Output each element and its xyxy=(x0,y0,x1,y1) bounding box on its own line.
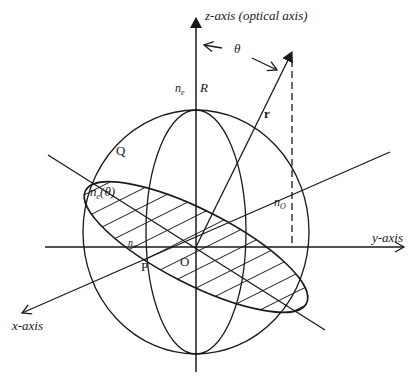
n-o-right-label: nO xyxy=(274,195,286,211)
hatched-section xyxy=(30,159,370,371)
point-R-label: R xyxy=(199,80,208,95)
r-vector xyxy=(196,52,292,247)
x-axis-label: x-axis xyxy=(11,318,43,333)
z-axis-label: z-axis (optical axis) xyxy=(204,8,308,23)
index-ellipsoid-diagram: z-axis (optical axis) θ r ne R Q ne(θ) n… xyxy=(0,0,416,387)
principal-axis-line xyxy=(48,155,325,330)
point-Q-label: Q xyxy=(116,143,126,158)
point-P-label: P xyxy=(141,259,148,274)
n-e-theta-label: ne(θ) xyxy=(90,184,115,201)
theta-label: θ xyxy=(234,41,241,56)
theta-arrow-left-icon xyxy=(204,45,222,48)
n-e-label: ne xyxy=(175,81,185,97)
n-o-left-label: no xyxy=(128,237,137,250)
theta-arrow-right-icon xyxy=(252,58,277,70)
y-axis-label: y-axis xyxy=(370,230,403,245)
r-label: r xyxy=(264,106,270,121)
x-axis-line xyxy=(22,152,390,313)
origin-O-label: O xyxy=(180,254,189,269)
